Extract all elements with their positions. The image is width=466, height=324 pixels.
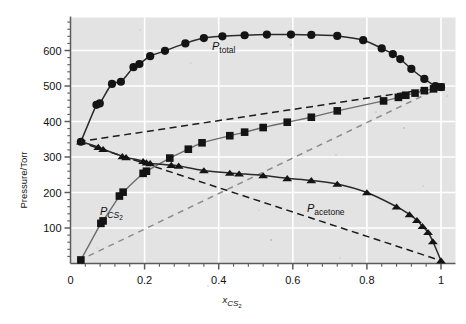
data-point-square [241,128,249,136]
scan-speck [190,62,191,63]
data-point-circle [108,80,116,88]
data-point-square [411,89,419,97]
data-point-square [143,167,151,175]
data-point-circle [420,75,428,83]
data-point-square [198,139,206,147]
x-axis-title: xCS2 [221,294,242,309]
data-point-circle [218,32,226,40]
data-point-circle [181,39,189,47]
data-point-circle [396,55,404,63]
chart-canvas: 10020030040050060000.20.40.60.81 Pressur… [0,0,466,324]
plot-background [71,18,456,264]
data-point-square [380,97,388,105]
data-point-circle [389,50,397,58]
scan-speck [139,29,140,30]
data-point-circle [161,47,169,55]
data-point-square [402,91,410,99]
x-axis-title-sub2: 2 [238,303,242,309]
label-p-total-sub: total [219,45,235,55]
label-p-cs2-sub2: 2 [119,214,123,221]
y-tick-label: 200 [43,187,61,199]
data-point-square [77,256,85,264]
scan-speck [375,111,377,113]
scan-speck [207,285,209,287]
scan-speck [306,149,308,151]
data-point-square [119,188,127,196]
x-tick-label: 1 [438,274,444,286]
y-tick-label: 400 [43,116,61,128]
scan-speck [96,247,97,248]
scan-speck [446,95,447,96]
y-tick-label: 600 [43,45,61,57]
y-axis-title: Pressure/Torr [18,151,29,208]
scan-speck [403,127,405,129]
data-point-square [283,118,291,126]
data-point-circle [96,99,104,107]
y-tick-label: 300 [43,151,61,163]
scan-speck [258,209,259,210]
data-point-square [430,85,438,93]
scan-speck [290,44,291,45]
data-point-circle [135,60,143,68]
data-point-square [437,83,445,91]
pressure-composition-chart: 10020030040050060000.20.40.60.81 Pressur… [0,0,466,324]
y-tick-label: 100 [43,222,61,234]
scan-speck [422,185,423,186]
data-point-circle [241,31,249,39]
label-p-cs2-sub: CS [107,210,119,220]
x-tick-label: 0.8 [359,274,374,286]
x-tick-label: 0.2 [137,274,152,286]
data-point-circle [200,34,208,42]
scan-speck [270,239,272,241]
x-axis-title-sub: CS [227,299,239,308]
data-point-square [395,94,403,102]
data-point-square [421,87,429,95]
y-tick-label: 500 [43,80,61,92]
data-point-circle [359,36,367,44]
data-point-circle [333,32,341,40]
data-point-circle [407,65,415,73]
data-point-circle [307,31,315,39]
data-point-square [333,107,341,115]
x-tick-label: 0 [67,274,73,286]
label-p-acetone-sub: acetone [314,207,345,217]
data-point-square [259,124,267,132]
scan-speck [339,257,340,258]
data-point-square [226,132,234,140]
data-point-circle [378,44,386,52]
data-point-circle [263,30,271,38]
x-tick-label: 0.4 [211,274,226,286]
x-tick-label: 0.6 [285,274,300,286]
data-point-square [308,113,316,121]
data-point-square [166,154,174,162]
data-point-square [185,145,193,153]
data-point-circle [287,30,295,38]
scan-speck [335,154,336,155]
data-point-square [99,217,107,225]
data-point-circle [146,52,154,60]
data-point-circle [117,78,125,86]
